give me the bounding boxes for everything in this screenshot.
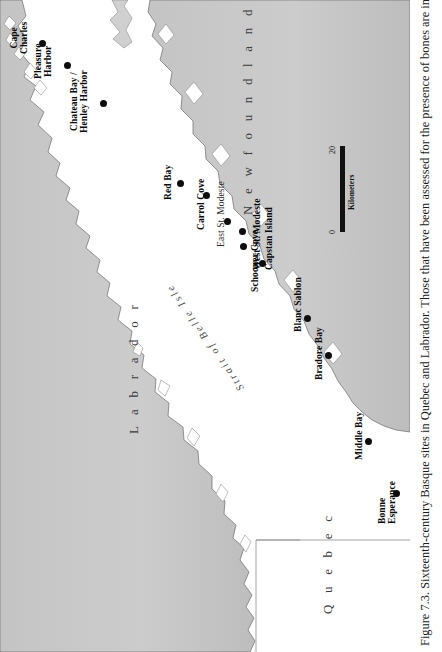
figure-page: L a b r a d o r Q u e b e c N e w f o u … [0, 0, 442, 652]
site-label-blanc-sablon: Blanc Sablon [293, 277, 303, 332]
site-label-schooner-cove: Schooner Cove [250, 230, 260, 292]
site-label-bonne-esperance: Bonne Esperance [378, 481, 398, 524]
scale-label-min: 0 [328, 230, 337, 234]
site-label-bradore-bay: Bradore Bay [314, 327, 324, 380]
site-label-cape-charles: Cape Charles [10, 22, 30, 54]
site-label-capstan-island: Capstan Island [264, 207, 274, 270]
site-label-red-bay: Red Bay [163, 165, 173, 200]
scale-units-label: Kilometers [347, 175, 356, 210]
figure-caption: Figure 7.3. Sixteenth-century Basque sit… [415, 6, 435, 646]
region-label-newfoundland: N e w f o u n d l a n d [240, 5, 256, 215]
scale-bar-line [340, 146, 345, 232]
map-rotation-container: L a b r a d o r Q u e b e c N e w f o u … [0, 0, 410, 652]
site-label-pleasure-harbor: Pleasure Harbor [34, 44, 54, 79]
map-canvas: L a b r a d o r Q u e b e c N e w f o u … [0, 0, 410, 652]
map-geography [0, 0, 410, 652]
site-label-carrol-cove: Carrol Cove [196, 179, 206, 230]
map-figure: L a b r a d o r Q u e b e c N e w f o u … [0, 0, 410, 652]
site-label-east-st-modeste: East St. Modeste [216, 181, 226, 247]
site-label-chateau-bay: Chateau Bay / Henley Harbor [70, 70, 90, 133]
scale-label-max: 20 [328, 146, 337, 154]
region-label-quebec: Q u e b e c [320, 512, 336, 614]
region-label-labrador: L a b r a d o r [126, 301, 142, 434]
figure-caption-area: Figure 7.3. Sixteenth-century Basque sit… [408, 0, 442, 652]
site-label-middle-bay: Middle Bay [354, 412, 364, 460]
